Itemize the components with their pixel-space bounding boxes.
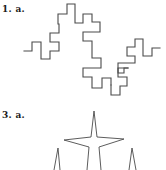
fractal-curve-right-arm [118, 39, 160, 73]
star-upper [64, 111, 124, 170]
fractal-curve-branch [111, 68, 128, 95]
problem-3a-star-fractal [54, 111, 136, 170]
fractal-curve-path [24, 4, 111, 88]
figures-canvas [0, 0, 166, 170]
star-right-spike [129, 148, 136, 170]
star-left-spike [54, 148, 60, 170]
problem-1a-fractal-curve [24, 4, 160, 95]
